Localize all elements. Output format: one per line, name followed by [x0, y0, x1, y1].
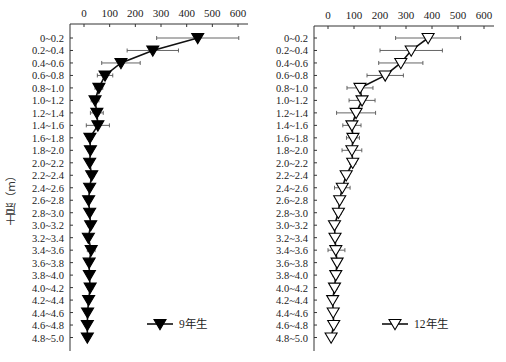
data-marker — [422, 34, 434, 44]
data-marker — [356, 96, 368, 106]
data-marker — [84, 158, 96, 168]
x-tick-label: 100 — [346, 9, 363, 21]
y-tick-label: 3.6~3.8 — [32, 258, 64, 269]
y-tick-label: 3.6~3.8 — [276, 258, 308, 269]
y-tick-label: 3.8~4.0 — [32, 270, 64, 281]
y-tick-label: 3.2~3.4 — [276, 233, 309, 244]
data-marker — [325, 333, 337, 343]
y-tick-label: 1.2~1.4 — [32, 108, 65, 119]
legend-label: 9年生 — [179, 317, 207, 330]
y-tick-label: 1.6~1.8 — [276, 133, 308, 144]
data-marker — [84, 146, 96, 156]
y-tick-label: 0.8~1.0 — [276, 83, 308, 94]
y-tick-label: 2.4~2.6 — [32, 183, 64, 194]
y-tick-label: 1.6~1.8 — [32, 133, 64, 144]
data-marker — [81, 321, 93, 331]
y-tick-label: 2.0~2.2 — [276, 158, 308, 169]
y-tick-label: 1.8~2.0 — [32, 145, 64, 156]
y-tick-label: 4.0~4.2 — [32, 283, 64, 294]
y-tick-label: 4.8~5.0 — [32, 333, 64, 344]
data-marker — [82, 308, 94, 318]
data-marker — [346, 146, 358, 156]
x-tick-label: 400 — [424, 9, 441, 21]
data-marker — [83, 296, 95, 306]
data-marker — [347, 133, 359, 143]
y-tick-label: 4.2~4.4 — [276, 295, 309, 306]
y-tick-label: 2.0~2.2 — [32, 158, 64, 169]
y-tick-label: 3.2~3.4 — [32, 233, 65, 244]
data-marker — [350, 108, 362, 118]
y-tick-label: 4.6~4.8 — [32, 320, 64, 331]
data-marker — [336, 183, 348, 193]
y-tick-label: 3.8~4.0 — [276, 270, 308, 281]
data-marker — [330, 271, 342, 281]
data-marker — [329, 283, 341, 293]
x-tick-label: 400 — [178, 7, 195, 19]
y-tick-label: 0.2~0.4 — [32, 45, 65, 56]
data-marker — [334, 196, 346, 206]
y-tick-label: 4.4~4.6 — [276, 308, 308, 319]
data-marker — [91, 108, 103, 118]
legend-label: 12年生 — [414, 317, 448, 330]
data-marker — [85, 221, 97, 231]
y-tick-label: 0.8~1.0 — [32, 83, 64, 94]
y-tick-label: 3.4~3.6 — [32, 245, 64, 256]
y-tick-label: 0.6~0.8 — [276, 70, 308, 81]
y-tick-label: 1.0~1.2 — [32, 95, 64, 106]
data-marker — [329, 233, 341, 243]
y-tick-label: 3.0~3.2 — [276, 220, 308, 231]
y-tick-label: 1.8~2.0 — [276, 145, 308, 156]
data-marker — [83, 271, 95, 281]
data-marker — [329, 221, 341, 231]
y-tick-label: 2.2~2.4 — [276, 170, 309, 181]
y-tick-label: 4.6~4.8 — [276, 320, 308, 331]
data-marker — [340, 171, 352, 181]
data-marker — [331, 258, 343, 268]
x-tick-label: 200 — [127, 7, 144, 19]
x-tick-label: 0 — [325, 9, 331, 21]
y-tick-label: 1.2~1.4 — [276, 108, 309, 119]
data-marker — [83, 258, 95, 268]
panel-9-year: 01002003004005006000~0.20.2~0.40.4~0.60.… — [32, 7, 248, 351]
data-marker — [84, 133, 96, 143]
y-tick-label: 0.6~0.8 — [32, 70, 64, 81]
y-tick-label: 1.4~1.6 — [32, 120, 64, 131]
y-tick-label: 0.4~0.6 — [32, 58, 64, 69]
y-tick-label: 4.2~4.4 — [32, 295, 65, 306]
y-tick-label: 2.6~2.8 — [276, 195, 308, 206]
x-tick-label: 300 — [153, 7, 170, 19]
y-tick-label: 2.8~3.0 — [32, 208, 64, 219]
data-marker — [92, 121, 104, 131]
data-marker — [81, 333, 93, 343]
x-tick-label: 500 — [204, 7, 221, 19]
data-marker — [84, 283, 96, 293]
panel-12-year: 01002003004005006000~0.20.2~0.40.4~0.60.… — [276, 9, 494, 351]
data-marker — [99, 71, 111, 81]
y-tick-label: 0~0.2 — [284, 33, 308, 44]
y-tick-label: 0~0.2 — [40, 33, 64, 44]
x-tick-label: 300 — [398, 9, 415, 21]
x-tick-label: 600 — [230, 7, 247, 19]
data-marker — [347, 158, 359, 168]
data-marker — [83, 196, 95, 206]
data-marker — [84, 183, 96, 193]
data-marker — [327, 296, 339, 306]
data-marker — [328, 321, 340, 331]
data-marker — [84, 208, 96, 218]
y-tick-label: 2.6~2.8 — [32, 195, 64, 206]
legend: 12年生 — [382, 317, 448, 330]
data-marker — [332, 208, 344, 218]
data-marker — [86, 171, 98, 181]
y-tick-label: 1.4~1.6 — [276, 120, 308, 131]
y-tick-label: 4.8~5.0 — [276, 333, 308, 344]
y-tick-label: 0.4~0.6 — [276, 58, 308, 69]
y-tick-label: 2.8~3.0 — [276, 208, 308, 219]
data-marker — [327, 308, 339, 318]
y-tick-label: 3.0~3.2 — [32, 220, 64, 231]
data-marker — [346, 121, 358, 131]
y-tick-label: 3.4~3.6 — [276, 245, 308, 256]
x-tick-label: 500 — [450, 9, 467, 21]
data-marker — [354, 83, 366, 93]
y-tick-label: 0.2~0.4 — [276, 45, 309, 56]
y-tick-label: 2.2~2.4 — [32, 170, 65, 181]
